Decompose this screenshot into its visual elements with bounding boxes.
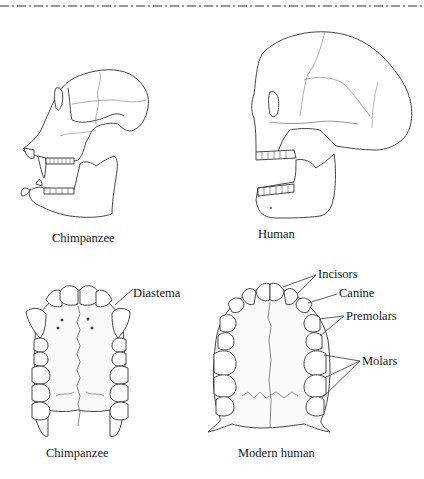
human-palate-illustration — [208, 275, 360, 432]
caption-chimp-palate: Chimpanzee — [46, 447, 108, 460]
figure-frame: Chimpanzee Human Chimpanzee Modern human… — [0, 0, 424, 479]
caption-human-skull: Human — [258, 228, 295, 241]
label-premolars: Premolars — [346, 310, 397, 323]
chimp-skull-illustration — [21, 70, 148, 218]
human-skull-illustration — [252, 32, 412, 218]
label-canine: Canine — [339, 287, 374, 300]
caption-human-palate: Modern human — [238, 447, 315, 460]
label-diastema: Diastema — [133, 287, 180, 300]
caption-chimp-skull: Chimpanzee — [52, 232, 114, 245]
chimp-palate-illustration — [26, 286, 133, 437]
label-molars: Molars — [362, 355, 397, 368]
label-incisors: Incisors — [318, 268, 358, 281]
